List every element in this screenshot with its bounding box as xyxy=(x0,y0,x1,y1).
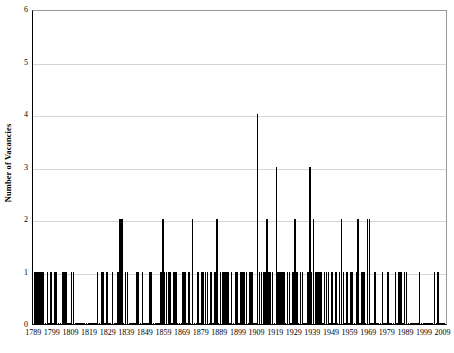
y-tick-label: 4 xyxy=(24,111,28,119)
bar xyxy=(374,272,376,325)
x-tick-label: 1789 xyxy=(25,328,41,338)
bar xyxy=(121,219,123,324)
bar xyxy=(65,272,67,325)
x-tick-label: 1859 xyxy=(155,328,171,338)
bar xyxy=(443,323,445,324)
x-tick-label: 1829 xyxy=(100,328,116,338)
bar xyxy=(43,272,45,325)
bar xyxy=(302,272,304,325)
bar xyxy=(73,272,75,325)
x-tick-label: 1869 xyxy=(174,328,190,338)
bar xyxy=(296,272,298,325)
bar xyxy=(184,272,186,325)
bar xyxy=(434,272,436,325)
bar xyxy=(47,272,49,325)
x-tick-label: 1959 xyxy=(342,328,358,338)
bar xyxy=(357,219,359,324)
x-axis-tick-labels: 1789179918091819182918391849185918691879… xyxy=(32,328,447,350)
bar xyxy=(352,272,354,325)
bar xyxy=(56,272,58,325)
x-tick-label: 1919 xyxy=(267,328,283,338)
bar xyxy=(272,272,274,325)
y-tick-label: 3 xyxy=(24,164,28,172)
bar xyxy=(363,272,365,325)
bar xyxy=(106,272,108,325)
x-tick-label: 1879 xyxy=(193,328,209,338)
bar xyxy=(231,272,233,325)
bar xyxy=(236,272,238,325)
bar xyxy=(320,272,322,325)
bar xyxy=(406,272,408,325)
bar xyxy=(387,272,389,325)
bar xyxy=(142,272,144,325)
x-tick-label: 1839 xyxy=(118,328,134,338)
bar xyxy=(127,272,129,325)
bar xyxy=(138,272,140,325)
bar xyxy=(175,272,177,325)
bar xyxy=(207,272,209,325)
x-tick-label: 1949 xyxy=(323,328,339,338)
bar xyxy=(151,272,153,325)
x-tick-label: 1909 xyxy=(249,328,265,338)
y-axis-title-text: Number of Vacancies xyxy=(3,123,13,202)
bar xyxy=(328,272,330,325)
bar xyxy=(331,272,333,325)
plot-area xyxy=(32,10,447,325)
bar xyxy=(169,272,171,325)
y-tick-label: 5 xyxy=(24,59,28,67)
x-tick-label: 1929 xyxy=(286,328,302,338)
bar xyxy=(192,219,194,324)
bar xyxy=(97,272,99,325)
x-tick-label: 1979 xyxy=(379,328,395,338)
bar xyxy=(112,272,114,325)
bar xyxy=(382,272,384,325)
x-tick-label: 1849 xyxy=(137,328,153,338)
bar xyxy=(102,272,104,325)
bar xyxy=(283,272,285,325)
y-tick-label: 1 xyxy=(24,269,28,277)
bar xyxy=(227,272,229,325)
bar xyxy=(50,272,52,325)
x-tick-label: 1999 xyxy=(416,328,432,338)
bar xyxy=(346,272,348,325)
vacancies-bar-chart: Number of Vacancies 0123456 178917991809… xyxy=(0,0,454,353)
bar xyxy=(437,272,439,325)
x-tick-label: 1969 xyxy=(360,328,376,338)
bar xyxy=(197,272,199,325)
y-axis-title: Number of Vacancies xyxy=(0,0,16,325)
bar xyxy=(216,219,218,324)
x-tick-label: 1799 xyxy=(44,328,60,338)
x-tick-label: 1899 xyxy=(230,328,246,338)
bar xyxy=(210,272,212,325)
bars-layer xyxy=(33,11,446,324)
y-axis-tick-labels: 0123456 xyxy=(16,0,30,340)
x-tick-label: 2009 xyxy=(435,328,451,338)
x-tick-label: 1819 xyxy=(81,328,97,338)
bar xyxy=(246,272,248,325)
bar xyxy=(419,272,421,325)
y-tick-label: 6 xyxy=(24,6,28,14)
x-tick-label: 1989 xyxy=(397,328,413,338)
bar xyxy=(369,219,371,324)
x-tick-label: 1889 xyxy=(211,328,227,338)
bar xyxy=(335,272,337,325)
bar xyxy=(289,272,291,325)
x-tick-label: 1809 xyxy=(62,328,78,338)
y-tick-label: 2 xyxy=(24,216,28,224)
bar xyxy=(395,272,397,325)
bar xyxy=(400,272,402,325)
bar xyxy=(188,272,190,325)
bar xyxy=(343,272,345,325)
x-tick-label: 1939 xyxy=(304,328,320,338)
bar xyxy=(251,272,253,325)
